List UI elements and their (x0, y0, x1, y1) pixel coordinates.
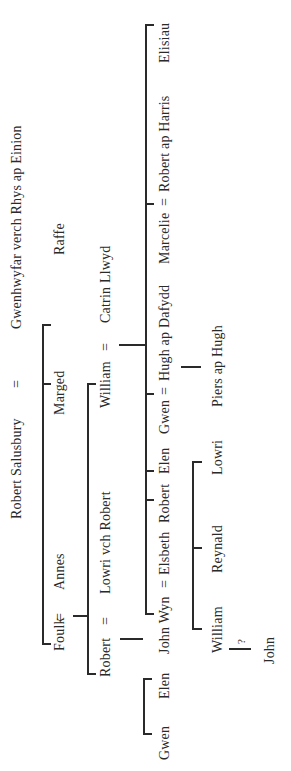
person-marged: Marged (53, 371, 67, 416)
person-elisiau: Elisiau (158, 23, 172, 63)
family-tree-diagram: Robert Salusbury = Gwenhwyfar verch Rhys… (0, 0, 291, 771)
person-robert2: Robert (158, 484, 172, 523)
robert-children-stem (120, 639, 143, 641)
robert-children-bar (143, 679, 145, 735)
person-william2: William (211, 606, 225, 653)
person-annes: Annes (53, 553, 67, 590)
stub-reynald (192, 548, 202, 550)
person-elen: Elen (158, 673, 172, 699)
stub-robert (87, 674, 96, 676)
stub-gwen2 (145, 394, 154, 396)
person-john: John (263, 637, 277, 664)
marriage-sign: = (99, 343, 113, 351)
marriage-sign: = (158, 198, 172, 206)
person-elsbeth: Elsbeth (158, 532, 172, 575)
stub-elen (143, 679, 152, 681)
marriage-drop-gwen-hugh-line (181, 367, 201, 369)
stub-elisiau (145, 25, 154, 27)
person-gwen2: Gwen (158, 400, 172, 434)
stub-william (87, 384, 96, 386)
stub-marcelie (145, 204, 154, 206)
marriage-sign: = (99, 617, 113, 625)
marriage-sign: = (158, 387, 172, 395)
stub-john-wyn (145, 614, 154, 616)
marriage-sign: = (53, 613, 67, 621)
gen2-children-bar (87, 384, 89, 675)
stub-elen2 (145, 471, 154, 473)
stub-robert2 (145, 500, 154, 502)
stub-raffe (42, 325, 51, 327)
stub-william2 (192, 629, 202, 631)
john-wyn-children-bar (192, 462, 194, 630)
person-reynald: Reynald (211, 525, 225, 573)
marriage-drop-foulk-annes (73, 616, 87, 618)
stub-marged (42, 384, 51, 386)
marriage-sign: = (10, 380, 24, 388)
person-gwen: Gwen (158, 726, 172, 760)
person-piers-ap-hugh: Piers ap Hugh (211, 325, 225, 407)
person-robert-ap-harris: Robert ap Harris (158, 95, 172, 192)
uncertain-mark: ? (234, 639, 248, 644)
william-children-bar (145, 25, 147, 615)
marriage-drop-william-catrin (119, 345, 145, 347)
stub-lowri (192, 462, 202, 464)
person-catrin-llwyd: Catrin Llwyd (99, 246, 113, 323)
uncertain-descent-tick (229, 649, 251, 651)
person-robert-salusbury: Robert Salusbury (10, 418, 24, 519)
person-marcelie: Marcelie (158, 213, 172, 264)
person-foulk: Foulk (53, 617, 67, 651)
stub-gwen (143, 734, 152, 736)
person-elen2: Elen (158, 448, 172, 474)
person-william: William (99, 361, 113, 408)
stub-foulk (42, 644, 51, 646)
person-robert: Robert (99, 638, 113, 677)
marriage-sign: = (158, 580, 172, 588)
person-john-wyn: John Wyn (158, 596, 172, 654)
person-raffe: Raffe (53, 223, 67, 255)
person-gwenhwyfar: Gwenhwyfar verch Rhys ap Einion (10, 125, 24, 329)
person-hugh-ap-dafydd: Hugh ap Dafydd (158, 285, 172, 381)
person-lowri: Lowri (211, 440, 225, 475)
gen1-children-bar (42, 325, 44, 645)
person-lowri-vch-robert: Lowri vch Robert (99, 491, 113, 594)
